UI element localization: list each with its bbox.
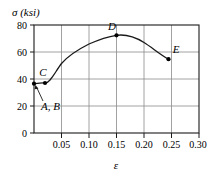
ytick-label-0: 0 bbox=[22, 128, 27, 139]
xtick-label-025: 0.25 bbox=[163, 139, 181, 150]
xtick-label-020: 0.20 bbox=[135, 139, 153, 150]
point-label-a-b: A, B bbox=[40, 100, 60, 112]
x-axis-ticks bbox=[62, 133, 200, 138]
xtick-label-010: 0.10 bbox=[80, 139, 98, 150]
data-point-d bbox=[114, 33, 118, 37]
y-axis-ticks bbox=[30, 25, 34, 133]
data-point-c bbox=[43, 81, 47, 85]
xtick-label-005: 0.05 bbox=[53, 139, 71, 150]
x-axis-title: ε bbox=[114, 159, 119, 171]
point-label-d: D bbox=[107, 20, 116, 32]
ytick-label-80: 80 bbox=[17, 20, 27, 31]
ytick-label-60: 60 bbox=[17, 47, 27, 58]
xtick-label-030: 0.30 bbox=[189, 139, 207, 150]
point-label-c: C bbox=[39, 66, 47, 78]
point-label-e: E bbox=[172, 43, 180, 55]
ytick-label-20: 20 bbox=[17, 101, 27, 112]
stress-strain-chart: 0 20 40 60 80 0.05 0.10 0.15 0.20 0.25 0… bbox=[0, 0, 215, 179]
data-point-e bbox=[166, 57, 170, 61]
ytick-label-40: 40 bbox=[17, 74, 27, 85]
xtick-label-015: 0.15 bbox=[108, 139, 126, 150]
y-axis-title: σ (ksi) bbox=[12, 6, 40, 19]
chart-figure: 0 20 40 60 80 0.05 0.10 0.15 0.20 0.25 0… bbox=[0, 0, 215, 179]
